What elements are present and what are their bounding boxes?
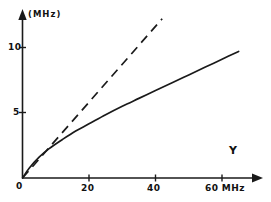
x-axis — [22, 174, 263, 183]
y-axis-label: (MHz) — [28, 10, 61, 19]
series-solid-curve — [23, 51, 239, 178]
chart-figure: (MHz) Y 10 5 0 20 40 60 MHz — [0, 0, 271, 202]
x-tick-label-0: 0 — [16, 182, 23, 191]
x-tick-label-40: 40 — [147, 184, 161, 193]
y-axis — [18, 9, 26, 178]
x-axis-arrow-icon — [252, 174, 263, 183]
x-tick-label-20: 20 — [81, 184, 95, 193]
y-tick-label-5: 5 — [13, 108, 20, 117]
x-axis-label: Y — [229, 145, 237, 156]
x-tick-label-60: 60 MHz — [205, 184, 245, 193]
chart-plot-area — [0, 0, 271, 202]
y-tick-label-10: 10 — [8, 43, 22, 52]
y-axis-arrow-icon — [18, 9, 26, 20]
